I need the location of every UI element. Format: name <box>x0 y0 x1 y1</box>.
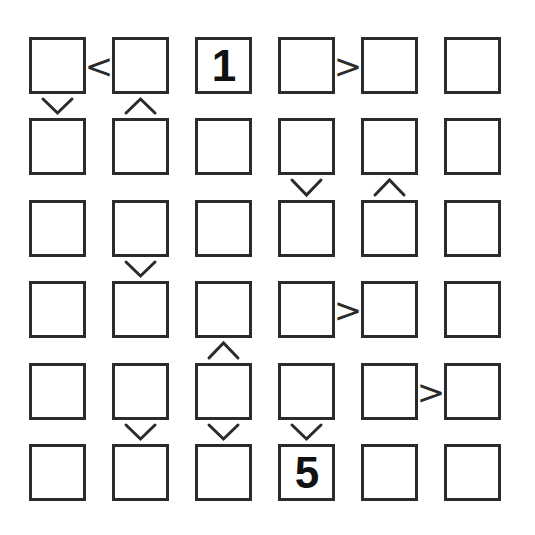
grid-cell-r6c1[interactable] <box>29 444 86 501</box>
grid-cell-r5c5[interactable] <box>361 363 418 420</box>
grid-cell-r3c3[interactable] <box>195 200 252 257</box>
grid-cell-r5c4[interactable] <box>278 363 335 420</box>
constraint-chevron-down-c2-r3-r4[interactable] <box>112 257 169 281</box>
constraint-greater-than-r5c5-c6[interactable]: > <box>418 363 444 420</box>
grid-cell-r6c2[interactable] <box>112 444 169 501</box>
grid-cell-r2c1[interactable] <box>29 118 86 175</box>
grid-cell-r6c5[interactable] <box>361 444 418 501</box>
grid-cell-r4c1[interactable] <box>29 281 86 338</box>
constraint-chevron-up-c5-r2-r3[interactable] <box>361 175 418 200</box>
grid-cell-r1c4[interactable] <box>278 37 335 94</box>
grid-cell-r3c5[interactable] <box>361 200 418 257</box>
grid-cell-r6c4[interactable]: 5 <box>278 444 335 501</box>
constraint-chevron-up-c2-r1-r2[interactable] <box>112 94 169 118</box>
grid-cell-r2c4[interactable] <box>278 118 335 175</box>
grid-cell-r5c6[interactable] <box>444 363 501 420</box>
grid-cell-r3c6[interactable] <box>444 200 501 257</box>
grid-cell-r2c2[interactable] <box>112 118 169 175</box>
cell-value-r1c3: 1 <box>212 44 235 88</box>
grid-cell-r1c6[interactable] <box>444 37 501 94</box>
puzzle-grid: 15<>>> <box>0 0 535 535</box>
constraint-greater-than-r1c4-c5[interactable]: > <box>335 37 361 94</box>
grid-cell-r4c4[interactable] <box>278 281 335 338</box>
constraint-chevron-down-c4-r5-r6[interactable] <box>278 420 335 444</box>
futoshiki-puzzle: 15<>>> <box>0 0 535 535</box>
constraint-chevron-down-c3-r5-r6[interactable] <box>195 420 252 444</box>
grid-cell-r2c3[interactable] <box>195 118 252 175</box>
grid-cell-r3c2[interactable] <box>112 200 169 257</box>
constraint-chevron-down-c4-r2-r3[interactable] <box>278 175 335 200</box>
constraint-greater-than-r4c4-c5[interactable]: > <box>335 281 361 338</box>
grid-cell-r2c5[interactable] <box>361 118 418 175</box>
grid-cell-r5c2[interactable] <box>112 363 169 420</box>
grid-cell-r3c1[interactable] <box>29 200 86 257</box>
grid-cell-r1c1[interactable] <box>29 37 86 94</box>
constraint-chevron-down-c1-r1-r2[interactable] <box>29 94 86 118</box>
grid-cell-r1c2[interactable] <box>112 37 169 94</box>
grid-cell-r5c3[interactable] <box>195 363 252 420</box>
constraint-chevron-down-c2-r5-r6[interactable] <box>112 420 169 444</box>
grid-cell-r4c3[interactable] <box>195 281 252 338</box>
grid-cell-r5c1[interactable] <box>29 363 86 420</box>
grid-cell-r4c2[interactable] <box>112 281 169 338</box>
grid-cell-r1c3[interactable]: 1 <box>195 37 252 94</box>
grid-cell-r4c6[interactable] <box>444 281 501 338</box>
grid-cell-r4c5[interactable] <box>361 281 418 338</box>
grid-cell-r6c3[interactable] <box>195 444 252 501</box>
constraint-less-than-r1c1-c2[interactable]: < <box>86 37 112 94</box>
grid-cell-r3c4[interactable] <box>278 200 335 257</box>
grid-cell-r2c6[interactable] <box>444 118 501 175</box>
grid-cell-r1c5[interactable] <box>361 37 418 94</box>
cell-value-r6c4: 5 <box>295 451 318 495</box>
constraint-chevron-up-c3-r4-r5[interactable] <box>195 338 252 363</box>
grid-cell-r6c6[interactable] <box>444 444 501 501</box>
